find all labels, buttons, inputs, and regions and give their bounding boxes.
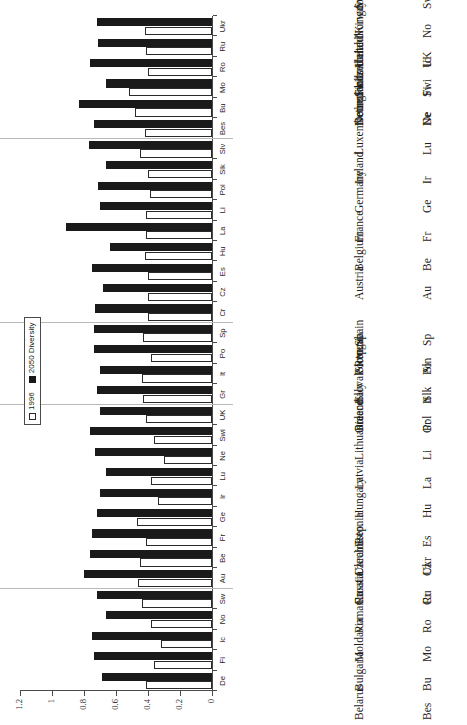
legend-swatch-solid-square: [29, 376, 36, 383]
bar-1996-hu: [145, 252, 212, 260]
bar-1996-ne: [164, 456, 212, 464]
category-label-sp: Sp: [218, 323, 227, 343]
group-separator: [0, 588, 233, 589]
category-label-ir: Ir: [218, 486, 227, 506]
legend-label-2050: 2050 Diversity: [27, 323, 37, 374]
value-tick: [52, 691, 53, 696]
bar-1996-gr: [143, 395, 212, 403]
bar-2050-ne: [95, 448, 212, 456]
category-label-li: Li: [218, 200, 227, 220]
bar-2050-la: [66, 223, 212, 231]
bar-2050-po: [94, 345, 212, 353]
category-label-bu: Bu: [218, 98, 227, 118]
category-label-es: Es: [218, 261, 227, 281]
category-label-cz: Cz: [218, 282, 227, 302]
bar-1996-slk: [148, 170, 212, 178]
bar-2050-mo: [106, 79, 212, 87]
category-tick: [213, 485, 217, 486]
value-tick-label: 0.4: [143, 699, 152, 725]
bar-1996-fr: [146, 538, 212, 546]
bar-2050-slv: [89, 141, 212, 149]
category-label-slv: Slv: [218, 139, 227, 159]
category-label-bes: Bes: [218, 118, 227, 138]
category-tick: [213, 629, 217, 630]
chart-legend: 1996 2050 Diversity: [24, 317, 41, 425]
category-label-gr: Gr: [218, 384, 227, 404]
category-tick: [213, 35, 217, 36]
bar-1996-li: [146, 211, 212, 219]
bar-2050-sw: [97, 591, 212, 599]
legend-entry-2050: 2050 Diversity: [27, 323, 37, 384]
bar-2050-ukr: [97, 18, 212, 26]
category-label-fr: Fr: [218, 527, 227, 547]
bar-2050-sp: [94, 325, 212, 333]
bar-2050-swi: [90, 427, 212, 435]
bar-2050-fr: [92, 529, 212, 537]
category-tick: [213, 383, 217, 384]
category-tick: [213, 15, 217, 16]
category-tick: [213, 56, 217, 57]
bar-2050-slk: [106, 161, 212, 169]
bar-1996-ru: [146, 47, 212, 55]
bar-1996-mo: [129, 88, 212, 96]
value-tick-label: 1: [47, 699, 56, 725]
bar-1996-lu: [151, 477, 212, 485]
category-label-be: Be: [218, 548, 227, 568]
value-axis-line: [20, 690, 213, 691]
bar-1996-ir: [158, 497, 212, 505]
bar-1996-ge: [137, 518, 212, 526]
bar-2050-ru: [98, 39, 212, 47]
value-tick: [20, 691, 21, 696]
category-tick: [213, 281, 217, 282]
value-tick-label: 1.2: [15, 699, 24, 725]
bar-1996-ro: [148, 68, 212, 76]
bar-2050-ro: [90, 59, 212, 67]
key-name-ru: Russia: [353, 573, 365, 604]
value-tick: [84, 691, 85, 696]
bar-2050-li: [100, 202, 212, 210]
category-label-ne: Ne: [218, 446, 227, 466]
bar-2050-bes: [94, 120, 212, 128]
key-abbr-ro: Ro: [421, 620, 433, 633]
bar-2050-cr: [95, 304, 212, 312]
key-abbr-bu: Bu: [421, 678, 433, 691]
category-tick: [213, 445, 217, 446]
category-label-hu: Hu: [218, 241, 227, 261]
category-tick: [213, 547, 217, 548]
category-label-no: No: [218, 609, 227, 629]
value-tick: [212, 691, 213, 696]
value-tick-label: 0.2: [175, 699, 184, 725]
category-label-uk: UK: [218, 405, 227, 425]
category-label-de: De: [218, 671, 227, 691]
bar-1996-au: [138, 579, 212, 587]
category-tick: [213, 76, 217, 77]
chart-rotation-wrapper: 00.20.40.60.811.2 DeFiIcNoSwAuBeFrGeIrLu…: [0, 0, 233, 725]
bar-1996-cr: [148, 313, 212, 321]
bar-1996-sp: [143, 333, 212, 341]
bar-2050-gr: [97, 386, 212, 394]
category-tick: [213, 465, 217, 466]
bar-2050-cz: [103, 284, 212, 292]
bar-1996-fi: [154, 661, 212, 669]
bar-1996-uk: [146, 415, 212, 423]
legend-label-1996: 1996: [27, 392, 37, 410]
bar-2050-uk: [100, 407, 212, 415]
bar-1996-ukr: [145, 27, 212, 35]
bar-2050-de: [102, 673, 212, 681]
category-tick: [213, 117, 217, 118]
bar-2050-au: [84, 570, 212, 578]
category-label-la: La: [218, 221, 227, 241]
category-tick: [213, 342, 217, 343]
bar-1996-de: [146, 681, 212, 689]
bar-2050-fi: [94, 652, 212, 660]
value-tick: [116, 691, 117, 696]
bar-1996-po: [151, 354, 212, 362]
bar-2050-es: [92, 264, 212, 272]
bar-1996-it: [142, 374, 212, 382]
category-tick: [213, 526, 217, 527]
category-label-swi: Swi: [218, 425, 227, 445]
category-tick: [213, 608, 217, 609]
bar-2050-it: [100, 366, 212, 374]
category-label-slk: Slk: [218, 159, 227, 179]
bar-chart: 00.20.40.60.811.2 DeFiIcNoSwAuBeFrGeIrLu…: [0, 0, 233, 725]
